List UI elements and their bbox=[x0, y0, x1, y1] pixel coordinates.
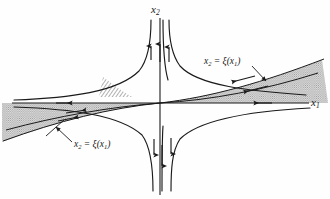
trajectory-lower-right bbox=[171, 108, 310, 191]
shaded-sectors bbox=[2, 60, 328, 142]
left-sector-wedge-tone bbox=[2, 103, 160, 142]
trajectory-upper-center-right bbox=[163, 20, 168, 80]
trajectory-upper-left bbox=[14, 20, 151, 100]
axis-label-x2-text: x2 bbox=[151, 3, 160, 15]
axis-label-x1-text: x1 bbox=[311, 96, 320, 108]
leader-line-upper bbox=[252, 66, 266, 81]
axis-label-x2: x2 bbox=[151, 4, 160, 15]
curve-label-upper-text: x2 = ξ(x1) bbox=[204, 56, 240, 66]
curve-label-lower: x2 = ξ(x1) bbox=[74, 140, 110, 150]
leader-line-lower bbox=[56, 127, 72, 142]
axis-label-x1: x1 bbox=[311, 97, 320, 108]
phase-portrait-figure: x2 x1 x2 = ξ(x1) x2 = ξ(x1) bbox=[0, 0, 330, 199]
flow-arrow-right-sector-a bbox=[232, 76, 255, 82]
curve-label-upper: x2 = ξ(x1) bbox=[204, 57, 240, 67]
phase-portrait-canvas bbox=[0, 0, 330, 199]
curve-label-lower-text: x2 = ξ(x1) bbox=[74, 139, 110, 149]
